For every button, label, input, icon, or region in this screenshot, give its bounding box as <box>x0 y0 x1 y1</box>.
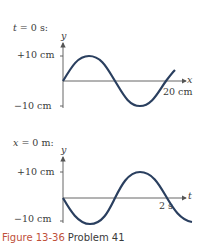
figure-number: Figure 13-36 <box>2 232 65 243</box>
figure-caption: Figure 13-36Problem 41 <box>2 232 125 243</box>
problem-reference: Problem 41 <box>68 232 125 243</box>
plot1-axes <box>60 43 186 108</box>
plot2-axes <box>60 157 186 223</box>
wave-plots <box>0 0 205 250</box>
